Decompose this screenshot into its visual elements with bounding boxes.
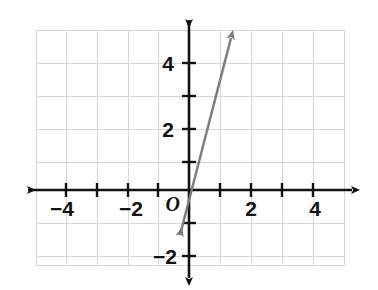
y-tick-label-pos4: 4	[162, 52, 174, 75]
plotted-line-series	[180, 38, 231, 235]
x-tick-label-neg2: −2	[119, 197, 143, 220]
x-tick-label-pos4: 4	[309, 197, 321, 220]
x-tick-label-neg4: −4	[50, 197, 74, 220]
graph-canvas: −4 −2 2 4 4 2 −2 O	[0, 0, 378, 290]
y-tick-label-neg2: −2	[153, 245, 177, 268]
y-tick-label-pos2: 2	[162, 118, 174, 141]
coordinate-plane-figure: −4 −2 2 4 4 2 −2 O	[0, 0, 378, 290]
origin-label: O	[166, 193, 180, 215]
y-axis	[182, 20, 196, 278]
x-tick-label-pos2: 2	[245, 197, 257, 220]
line-y-equals-4x	[180, 38, 231, 235]
